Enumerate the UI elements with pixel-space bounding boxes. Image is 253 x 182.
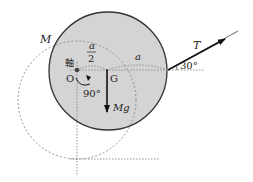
axis-label: 軸 [65,57,74,68]
rigid-body-diagram: M 軸 O G a 2 a T 30° 90° Mg [0,0,253,182]
half-length-denominator: 2 [88,53,94,64]
center-label: G [110,73,118,84]
pivot-point [75,68,80,73]
half-length-numerator: a [89,40,95,51]
weight-label: Mg [112,102,130,113]
mass-label: M [39,33,52,46]
tension-angle-arc [176,66,177,70]
length-label: a [135,51,141,62]
disk [49,12,167,130]
tension-angle-label: 30° [180,60,198,71]
rotation-angle-label: 90° [83,88,101,99]
tension-label: T [193,39,202,52]
pivot-label: O [66,73,74,84]
